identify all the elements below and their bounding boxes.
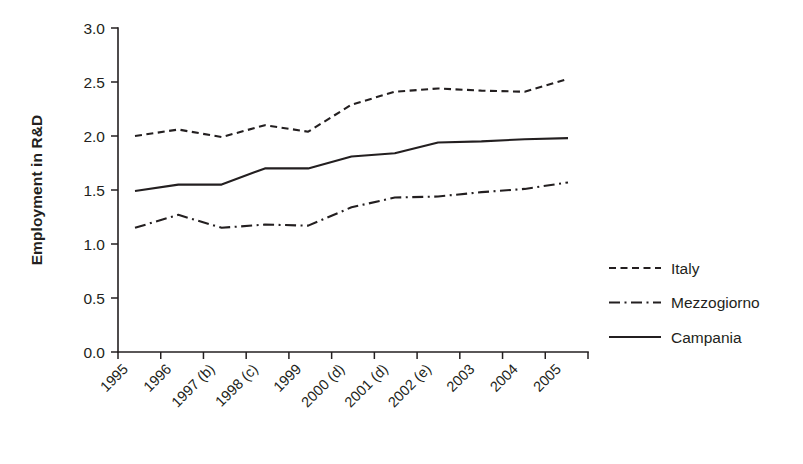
y-axis-title-text: Employment in R&D bbox=[28, 115, 45, 266]
chart-figure: 0.00.51.01.52.02.53.0 Employment in R&D … bbox=[0, 0, 803, 464]
legend-label-campania: Campania bbox=[671, 329, 742, 346]
y-tick-label: 0.5 bbox=[83, 290, 105, 307]
y-tick-label: 2.5 bbox=[83, 74, 105, 91]
y-tick-label: 1.5 bbox=[83, 182, 105, 199]
y-tick-label: 3.0 bbox=[83, 20, 105, 37]
y-tick-label: 1.0 bbox=[83, 236, 105, 253]
y-axis-title: Employment in R&D bbox=[28, 115, 45, 266]
y-tick-label: 2.0 bbox=[83, 128, 105, 145]
legend-label-mezzogiorno: Mezzogiorno bbox=[671, 294, 760, 311]
line-chart: 0.00.51.01.52.02.53.0 Employment in R&D … bbox=[0, 0, 803, 464]
y-tick-label: 0.0 bbox=[83, 344, 105, 361]
legend-label-italy: Italy bbox=[671, 260, 700, 277]
